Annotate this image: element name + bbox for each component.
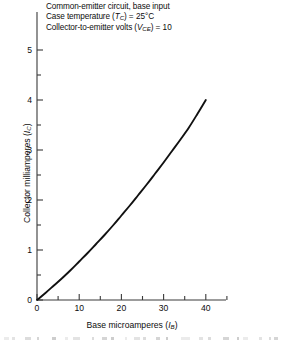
x-axis-tick-label: 0 xyxy=(25,304,49,313)
scan-artifact-mark xyxy=(37,337,39,340)
y-axis-title-close: ) xyxy=(22,123,32,126)
scan-artifact-mark xyxy=(125,337,127,340)
y-axis-tick-label: 5 xyxy=(18,46,32,55)
x-axis-tick-label: 20 xyxy=(109,304,133,313)
scan-artifact-mark xyxy=(52,337,56,340)
scan-artifact-mark xyxy=(166,337,168,340)
scan-artifact-mark xyxy=(25,337,31,340)
scan-artifact-mark xyxy=(156,337,160,340)
scan-artifact-mark xyxy=(208,337,211,340)
x-axis-title-close: ) xyxy=(175,320,178,330)
x-axis-tick-label: 10 xyxy=(67,304,91,313)
scan-artifact-mark xyxy=(237,337,239,340)
scan-artifact-mark xyxy=(12,337,15,340)
scan-artifact-mark xyxy=(134,337,140,340)
scan-artifact-mark xyxy=(102,337,107,340)
data-curve xyxy=(37,100,206,300)
scan-artifact-mark xyxy=(181,337,190,340)
x-axis-ticks xyxy=(37,294,227,300)
x-axis-tick-label: 40 xyxy=(194,304,218,313)
scan-artifact-mark xyxy=(199,337,203,340)
scan-artifact-mark xyxy=(274,337,278,340)
y-axis-title-subscript: C xyxy=(25,126,32,130)
figure-collector-characteristic: Common-emitter circuit, base input Case … xyxy=(0,0,283,343)
scan-artifact-mark xyxy=(143,337,146,340)
scan-artifact-mark xyxy=(243,337,248,340)
x-axis-title: Base microamperes (IB) xyxy=(37,320,227,330)
scan-artifact-strip xyxy=(0,334,283,343)
scan-artifact-mark xyxy=(92,337,94,340)
scan-artifact-mark xyxy=(223,337,229,340)
scan-artifact-mark xyxy=(259,337,262,340)
scan-artifact-mark xyxy=(4,337,9,340)
scan-artifact-mark xyxy=(65,337,68,340)
y-axis-title: Collector milliamperes (IC) xyxy=(22,88,32,258)
y-axis-title-text: Collector milliamperes ( xyxy=(22,133,32,223)
x-axis-title-text: Base microamperes ( xyxy=(86,320,168,330)
axis-lines xyxy=(37,12,226,300)
scan-artifact-mark xyxy=(111,337,114,340)
plot-area xyxy=(0,0,283,343)
x-axis-tick-labels: 010203040 xyxy=(0,304,283,318)
scan-artifact-mark xyxy=(269,337,271,340)
scan-artifact-mark xyxy=(73,337,80,340)
y-axis-tick-label: 0 xyxy=(18,296,32,305)
y-axis-ticks xyxy=(37,50,43,300)
x-axis-tick-label: 30 xyxy=(152,304,176,313)
